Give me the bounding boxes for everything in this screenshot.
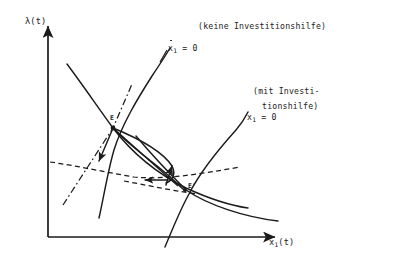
curve-lambdadot-zero-no-aid xyxy=(67,64,248,208)
trajectory-arrow-down-left xyxy=(99,128,113,161)
equilibrium-point-Eprime-marker xyxy=(183,188,187,192)
annotation-with-aid-line2: tionshilfe) xyxy=(262,101,318,111)
phase-diagram-canvas xyxy=(0,0,395,265)
x-axis-label-tail: (t) xyxy=(278,237,294,247)
curve-label-xdot-zero: x1 = 0 xyxy=(168,43,198,54)
curve-label-xdot-base: x xyxy=(168,43,173,53)
x-axis-label: x1(t) xyxy=(269,237,294,248)
annotation-no-aid: (keine Investitionshilfe) xyxy=(198,21,326,31)
curve-lambdadot-zero-with-aid xyxy=(136,136,278,221)
curve-label-x-sub: 1 xyxy=(252,116,256,123)
phase-diagram-figure: λ(t) x1(t) (keine Investitionshilfe) (mi… xyxy=(0,0,395,265)
curve-label-xdot-sub: 1 xyxy=(173,47,177,54)
y-axis-label: λ(t) xyxy=(25,16,47,26)
curve-label-xdot-tail: = 0 xyxy=(182,43,197,53)
point-label-E: E xyxy=(110,114,114,122)
curve-label-x-tail: = 0 xyxy=(261,112,276,122)
equilibrium-point-E-marker xyxy=(111,126,116,131)
stable-arm-dashed-upper xyxy=(50,162,240,178)
annotation-with-aid-line1: (mit Investi- xyxy=(253,86,320,96)
unstable-arm-dashdot xyxy=(63,84,132,205)
curve-label-x-zero: x1 = 0 xyxy=(247,112,277,123)
curve-x-zero-with-aid xyxy=(165,112,248,247)
curve-xdot-zero-no-aid xyxy=(99,48,170,218)
point-label-E-prime: E' xyxy=(188,182,196,190)
axis-group xyxy=(48,26,275,237)
